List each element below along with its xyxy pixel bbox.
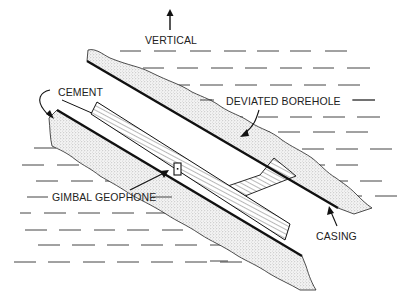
inner-wall-line xyxy=(62,100,94,114)
label-casing: CASING xyxy=(316,230,357,242)
label-vertical: VERTICAL xyxy=(145,34,197,46)
label-cement: CEMENT xyxy=(58,86,103,98)
label-deviated-borehole: DEVIATED BOREHOLE xyxy=(226,95,341,107)
vertical-arrow-icon xyxy=(167,9,174,30)
label-gimbal-geophone: GIMBAL GEOPHONE xyxy=(52,191,156,203)
gimbal-geophone xyxy=(174,163,181,175)
borehole-diagram: VERTICAL CEMENT DEVIATED BOREHOLE GIMBAL… xyxy=(0,0,405,291)
casing-arrow-icon xyxy=(331,212,337,226)
